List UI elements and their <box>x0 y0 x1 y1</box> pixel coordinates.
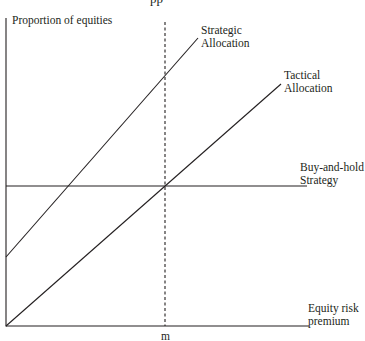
strategic-allocation-label-line2: Allocation <box>201 37 250 50</box>
strategic-allocation-line <box>6 38 198 257</box>
strategic-allocation-label-line1: Strategic <box>201 24 242 37</box>
x-axis-label-line1: Equity risk <box>308 302 359 315</box>
m-marker-label: m <box>161 330 170 341</box>
y-axis-label: Proportion of equities <box>12 14 112 27</box>
tactical-allocation-label-line2: Allocation <box>284 82 333 95</box>
tactical-allocation-line <box>6 84 281 326</box>
tactical-allocation-label-line1: Tactical <box>284 69 320 82</box>
x-axis-label-line2: premium <box>308 315 350 328</box>
buy-and-hold-label-line2: Strategy <box>300 174 338 187</box>
buy-and-hold-label-line1: Buy-and-hold <box>300 161 364 174</box>
